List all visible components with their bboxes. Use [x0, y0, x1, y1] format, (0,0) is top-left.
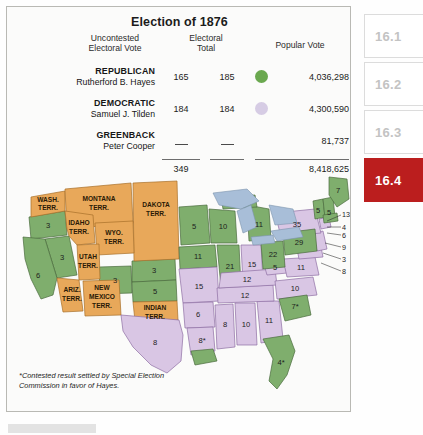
map-value-iowa: 11 — [194, 252, 202, 261]
page-root: Election of 1876 Uncontested Electoral V… — [0, 0, 423, 435]
map-label-newmexico-terr3: TERR. — [92, 302, 112, 309]
sidebar-item-16-3[interactable]: 16.3 — [364, 110, 423, 154]
republican-uncontested-value: 165 — [157, 72, 205, 82]
party-label-greenback: GREENBACK — [96, 130, 155, 140]
republican-popular-vote-value: 4,036,298 — [269, 72, 349, 82]
map-callout-value-6: 6 — [342, 231, 346, 240]
electoral-map: .g { fill:#7fae6d; stroke:#4a6b3d; strok… — [7, 175, 351, 412]
map-callout-value-9: 9 — [342, 243, 346, 252]
candidate-name-republican: Rutherford B. Hayes — [76, 77, 155, 87]
democratic-uncontested-value: 184 — [157, 104, 205, 114]
greenback-electoral-total-value — [205, 139, 249, 149]
total-uncontested-value: 349 — [157, 164, 205, 174]
republican-color-swatch — [255, 70, 268, 83]
map-value-vermont: 5 — [316, 206, 320, 215]
map-value-wisconsin: 10 — [219, 222, 227, 231]
figure-title: Election of 1876 — [7, 15, 351, 29]
map-value-texas: 8 — [153, 338, 157, 347]
map-value-oregon: 3 — [46, 221, 50, 230]
map-label-newmexico-terr2: MEXICO — [89, 293, 115, 300]
map-label-arizona-terr2: TERR. — [62, 295, 82, 302]
column-header-electoral-total: Electoral Total — [169, 33, 243, 54]
map-label-utah-terr: UTAH — [79, 253, 97, 260]
map-value-florida: 4* — [277, 358, 284, 367]
map-label-idaho-terr: IDAHO — [68, 219, 89, 226]
sidebar-item-16-2-label: 16.2 — [365, 77, 402, 92]
map-label-idaho-terr2: TERR. — [69, 228, 89, 235]
map-value-maine: 7 — [336, 186, 340, 195]
map-label-montana-terr: MONTANA — [82, 195, 115, 202]
map-callout-value-8: 8 — [342, 267, 346, 276]
map-value-arkansas: 6 — [196, 310, 200, 319]
column-header-uncontested-line1: Uncontested — [67, 33, 163, 43]
map-value-pennsylvania: 29 — [295, 238, 303, 247]
map-value-georgia: 11 — [265, 316, 273, 325]
sum-rule-popular — [255, 159, 349, 160]
map-label-indian-terr2: TERR. — [145, 313, 165, 320]
map-callout-value-3: 3 — [342, 255, 346, 264]
map-value-mississippi: 8 — [223, 320, 227, 329]
column-header-electoral-line1: Electoral — [169, 33, 243, 43]
map-value-california: 6 — [36, 271, 40, 280]
map-value-louisiana: 8* — [198, 336, 205, 345]
sidebar-item-16-4[interactable]: 16.4 — [364, 158, 423, 202]
map-label-newmexico-terr: NEW — [94, 284, 110, 291]
sidebar-item-16-2[interactable]: 16.2 — [364, 62, 423, 106]
map-value-northcarolina: 10 — [291, 284, 299, 293]
table-row-republican: REPUBLICAN Rutherford B. Hayes 165 185 4… — [7, 66, 351, 96]
map-callout-value-13: 13 — [342, 210, 350, 219]
map-value-newyork: 35 — [293, 220, 301, 229]
section-nav-sidebar: 16.1 16.2 16.3 16.4 — [364, 0, 423, 435]
leader-line-3 — [327, 233, 341, 235]
map-value-kentucky: 12 — [243, 275, 251, 284]
leader-line-4 — [325, 243, 341, 247]
sidebar-item-16-3-label: 16.3 — [365, 125, 402, 140]
map-label-dakota-terr2: TERR. — [146, 210, 166, 217]
dash-glyph — [221, 144, 234, 145]
map-value-southcarolina: 7* — [291, 302, 298, 311]
map-value-missouri: 15 — [195, 282, 203, 291]
democratic-popular-vote-value: 4,300,590 — [269, 104, 349, 114]
total-popular-vote-value: 8,418,625 — [269, 164, 349, 174]
republican-electoral-total-value: 185 — [205, 72, 249, 82]
candidate-name-democratic: Samuel J. Tilden — [91, 109, 155, 119]
election-figure-panel: Election of 1876 Uncontested Electoral V… — [6, 6, 351, 412]
party-name-democratic: DEMOCRATIC Samuel J. Tilden — [17, 98, 155, 120]
map-value-kansas: 5 — [153, 287, 157, 296]
leader-line-6 — [321, 263, 341, 271]
greenback-uncontested-value — [157, 139, 205, 149]
sidebar-item-16-1-label: 16.1 — [365, 29, 402, 44]
map-label-utah-terr2: TERR. — [78, 262, 98, 269]
bottom-placeholder-bar — [8, 424, 96, 433]
column-header-uncontested: Uncontested Electoral Vote — [67, 33, 163, 54]
election-results-table: Election of 1876 Uncontested Electoral V… — [7, 7, 351, 177]
table-row-greenback: GREENBACK Peter Cooper 81,737 — [7, 130, 351, 160]
column-header-popular-vote: Popular Vote — [255, 40, 345, 50]
democratic-color-swatch — [255, 102, 268, 115]
dash-glyph — [175, 144, 188, 145]
table-row-democratic: DEMOCRATIC Samuel J. Tilden 184 184 4,30… — [7, 98, 351, 128]
map-value-ohio: 22 — [269, 250, 277, 259]
map-label-arizona-terr: ARIZ. — [63, 286, 80, 293]
map-label-wyoming-terr2: TERR. — [104, 238, 124, 245]
map-value-newhampshire: 5 — [327, 208, 331, 217]
map-value-nebraska: 3 — [152, 266, 156, 275]
sidebar-item-16-4-label: 16.4 — [365, 173, 402, 188]
map-label-wyoming-terr: WYO. — [105, 229, 123, 236]
map-value-michigan: 11 — [255, 220, 263, 229]
map-label-dakota-terr: DAKOTA — [142, 201, 170, 208]
map-value-virginia: 11 — [297, 263, 305, 272]
map-value-westvirginia: 5 — [273, 263, 277, 272]
map-label-montana-terr2: TERR. — [89, 204, 109, 211]
map-value-indiana: 15 — [248, 260, 256, 269]
map-label-washington-terr2: TERR. — [38, 204, 58, 211]
party-name-greenback: GREENBACK Peter Cooper — [17, 130, 155, 152]
leader-line-5 — [323, 253, 341, 259]
map-value-illinois: 21 — [226, 262, 234, 271]
map-value-tennessee: 12 — [241, 291, 249, 300]
democratic-electoral-total-value: 184 — [205, 104, 249, 114]
greenback-popular-vote-value: 81,737 — [269, 136, 349, 146]
candidate-name-greenback: Peter Cooper — [103, 141, 155, 151]
sidebar-item-16-1[interactable]: 16.1 — [364, 14, 423, 58]
party-name-republican: REPUBLICAN Rutherford B. Hayes — [17, 66, 155, 88]
